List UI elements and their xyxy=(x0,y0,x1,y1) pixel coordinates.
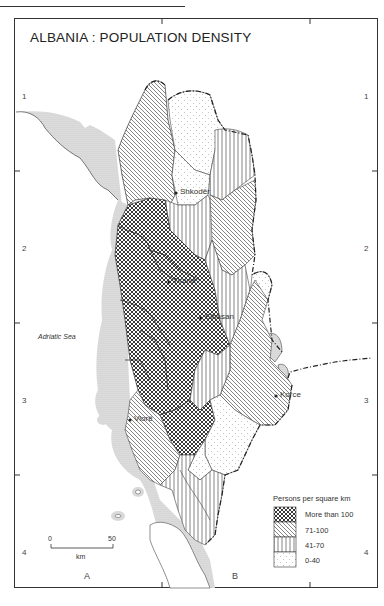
legend-title: Persons per square km xyxy=(273,494,351,503)
grid-row-left-4: 4 xyxy=(22,548,26,557)
legend-item-71-100: 71-100 xyxy=(305,526,328,535)
legend-item-more-than-100: More than 100 xyxy=(305,510,353,519)
city-label-elbasan: Elbasan xyxy=(205,312,234,321)
scale-start: 0 xyxy=(48,535,52,542)
legend-item-0-40: 0-40 xyxy=(305,556,320,565)
legend-swatches xyxy=(274,507,296,567)
city-label-tirana: Tirana xyxy=(173,276,195,285)
grid-row-right-4: 4 xyxy=(364,548,368,557)
grid-col-a: A xyxy=(84,571,90,581)
grid-col-b: B xyxy=(232,571,238,581)
city-label-vlore: Vlorë xyxy=(134,414,153,423)
scale-bar xyxy=(51,544,113,548)
city-label-korce: Korce xyxy=(280,390,301,399)
grid-row-right-3: 3 xyxy=(364,396,368,405)
scale-end: 50 xyxy=(108,535,116,542)
grid-row-left-3: 3 xyxy=(22,396,26,405)
legend-item-41-70: 41-70 xyxy=(305,541,324,550)
grid-row-left-1: 1 xyxy=(22,92,26,101)
city-label-shkoder: Shkodër xyxy=(180,187,210,196)
scale-unit: km xyxy=(76,553,85,560)
grid-row-right-2: 2 xyxy=(364,244,368,253)
sea-label: Adriatic Sea xyxy=(38,333,76,340)
grid-row-right-1: 1 xyxy=(364,92,368,101)
grid-row-left-2: 2 xyxy=(22,244,26,253)
